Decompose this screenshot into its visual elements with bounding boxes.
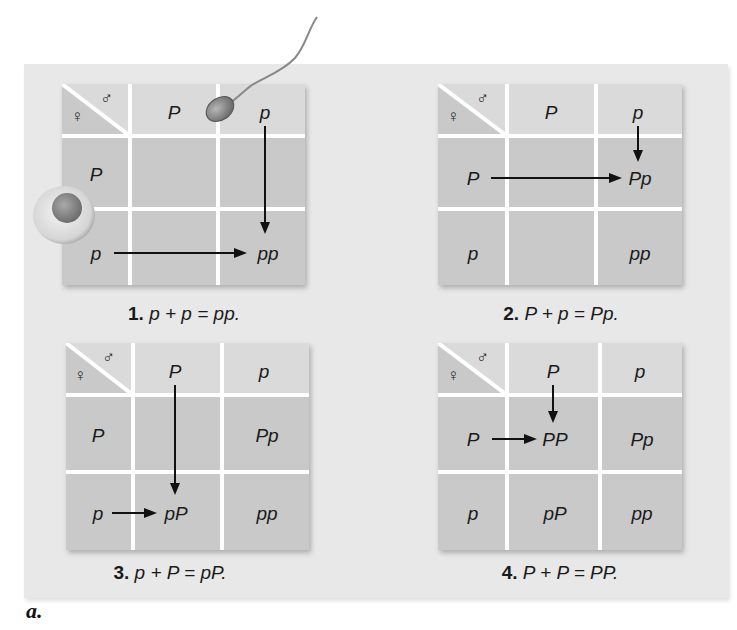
grid-line-horizontal [438, 393, 682, 397]
female-symbol-icon: ♀ [447, 108, 460, 125]
female-allele-1: P [92, 426, 105, 445]
male-allele-1: P [169, 362, 182, 381]
offspring-cell-pp: pp [631, 504, 652, 523]
offspring-cell-Pp: Pp [630, 430, 653, 449]
punnett-square-3: ♂ ♀ P p P p Pp pP pp [66, 343, 309, 550]
arrow-down-icon [260, 126, 270, 236]
grid-line-vertical [598, 343, 602, 550]
offspring-cell-pp: pp [629, 244, 650, 263]
grid-line-horizontal [438, 207, 682, 211]
grid-line-vertical [131, 343, 135, 550]
male-allele-2: p [635, 362, 646, 381]
grid-line-vertical [505, 84, 509, 285]
grid-line-vertical [505, 343, 509, 550]
arrow-right-icon [114, 248, 248, 258]
female-symbol-icon: ♀ [71, 108, 84, 125]
male-symbol-icon: ♂ [100, 90, 113, 107]
female-allele-2: p [468, 244, 479, 263]
figure-label: a. [26, 598, 43, 624]
arrow-down-icon [548, 385, 558, 425]
offspring-cell-pP: pP [543, 504, 566, 523]
male-allele-1: P [547, 362, 560, 381]
offspring-cell-Pp: Pp [628, 169, 651, 188]
arrow-right-icon [491, 173, 623, 183]
male-symbol-icon: ♂ [476, 90, 489, 107]
female-symbol-icon: ♀ [447, 367, 460, 384]
grid-line-horizontal [438, 470, 682, 474]
offspring-cell-PP: PP [542, 430, 567, 449]
grid-line-vertical [220, 343, 224, 550]
grid-line-horizontal [66, 393, 309, 397]
egg-cell-icon [30, 182, 100, 247]
grid-line-horizontal [438, 134, 682, 138]
female-allele-1: P [467, 430, 480, 449]
panel-3-caption: 3. p + P = pP. [113, 562, 226, 584]
male-allele-2: p [633, 103, 644, 122]
grid-line-horizontal [66, 470, 309, 474]
female-allele-1: P [90, 165, 103, 184]
arrow-down-icon [170, 385, 180, 497]
arrow-down-icon [633, 126, 643, 164]
male-symbol-icon: ♂ [102, 349, 115, 366]
offspring-cell-Pp: Pp [255, 426, 278, 445]
male-allele-2: p [259, 362, 270, 381]
panel-1-caption: 1. p + p = pp. [128, 303, 240, 325]
male-allele-1: P [168, 103, 181, 122]
punnett-square-4: ♂ ♀ P p P p PP Pp pP pp [438, 343, 682, 550]
panel-2-caption: 2. P + p = Pp. [503, 303, 619, 325]
grid-line-vertical [594, 84, 598, 285]
female-allele-1: P [467, 169, 480, 188]
male-allele-1: P [545, 103, 558, 122]
male-symbol-icon: ♂ [476, 349, 489, 366]
female-symbol-icon: ♀ [74, 367, 87, 384]
offspring-cell-pp: pp [256, 504, 277, 523]
offspring-cell-pp: pp [257, 244, 278, 263]
sperm-cell-icon [180, 10, 350, 120]
female-allele-2: p [93, 504, 104, 523]
punnett-square-2: ♂ ♀ P p P p Pp pp [438, 84, 682, 285]
arrow-right-icon [112, 508, 158, 518]
female-allele-2: p [468, 504, 479, 523]
offspring-cell-pP: pP [164, 504, 187, 523]
arrow-right-icon [492, 434, 538, 444]
panel-4-caption: 4. P + P = PP. [502, 562, 619, 584]
